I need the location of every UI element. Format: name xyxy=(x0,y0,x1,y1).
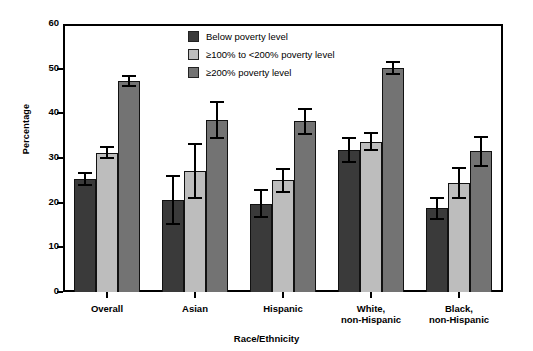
error-bar-cap-upper xyxy=(210,101,224,103)
x-tick-mark-0 xyxy=(106,292,108,298)
error-bar-cap-upper xyxy=(474,136,488,138)
error-bar-line xyxy=(348,138,350,161)
y-axis-title: Percentage xyxy=(21,89,31,169)
error-bar-cap-upper xyxy=(254,189,268,191)
error-bar-line xyxy=(370,133,372,150)
error-bar-line xyxy=(458,168,460,197)
error-bar-cap-upper xyxy=(276,168,290,170)
error-bar-cap-lower xyxy=(100,157,114,159)
y-tick-label-30: 30 xyxy=(38,151,59,162)
bar-1-0 xyxy=(162,24,184,292)
error-bar-line xyxy=(436,198,438,219)
error-bar-cap-lower xyxy=(430,218,444,220)
legend-label-0: Below poverty level xyxy=(206,31,288,42)
error-bar-cap-upper xyxy=(430,197,444,199)
bar-rect xyxy=(206,120,228,292)
error-bar-cap-upper xyxy=(100,146,114,148)
error-bar-cap-lower xyxy=(166,223,180,225)
error-bar-line xyxy=(260,190,262,217)
bar-rect xyxy=(96,153,118,292)
error-bar-cap-lower xyxy=(474,165,488,167)
bar-0-1 xyxy=(96,24,118,292)
bar-chart: Percentage 0102030405060 OverallAsianHis… xyxy=(0,0,533,351)
x-tick-mark-3 xyxy=(370,292,372,298)
error-bar-cap-upper xyxy=(78,172,92,174)
bar-rect xyxy=(338,150,360,292)
bar-rect xyxy=(118,81,140,292)
x-tick-mark-4 xyxy=(458,292,460,298)
error-bar-line xyxy=(282,169,284,192)
error-bar-cap-upper xyxy=(188,143,202,145)
bar-3-0 xyxy=(338,24,360,292)
bar-rect xyxy=(426,208,448,292)
bar-rect xyxy=(360,142,382,292)
legend-swatch-0 xyxy=(188,31,199,42)
x-tick-label-4: Black,non-Hispanic xyxy=(399,303,519,325)
bar-3-2 xyxy=(382,24,404,292)
error-bar-cap-upper xyxy=(364,132,378,134)
legend: Below poverty level≥100% to <200% povert… xyxy=(188,28,335,82)
legend-item-2: ≥200% poverty level xyxy=(188,64,335,80)
error-bar-cap-lower xyxy=(452,197,466,199)
error-bar-cap-lower xyxy=(210,137,224,139)
y-tick-label-10: 10 xyxy=(38,240,59,251)
error-bar-cap-lower xyxy=(276,191,290,193)
bar-rect xyxy=(448,183,470,292)
legend-item-1: ≥100% to <200% poverty level xyxy=(188,46,335,62)
bar-rect xyxy=(272,180,294,292)
error-bar-line xyxy=(304,109,306,134)
error-bar-line xyxy=(172,176,174,224)
bar-rect xyxy=(74,179,96,292)
error-bar-cap-lower xyxy=(364,149,378,151)
error-bar-cap-lower xyxy=(342,161,356,163)
error-bar-cap-upper xyxy=(342,137,356,139)
y-tick-label-60: 60 xyxy=(38,17,59,28)
error-bar-line xyxy=(480,137,482,166)
bar-4-2 xyxy=(470,24,492,292)
x-tick-label-line2: non-Hispanic xyxy=(341,314,401,325)
bar-rect xyxy=(470,151,492,292)
x-axis-title: Race/Ethnicity xyxy=(0,333,533,344)
error-bar-cap-lower xyxy=(298,133,312,135)
bar-0-2 xyxy=(118,24,140,292)
y-tick-label-0: 0 xyxy=(38,285,59,296)
bar-4-1 xyxy=(448,24,470,292)
bar-3-1 xyxy=(360,24,382,292)
error-bar-cap-lower xyxy=(386,73,400,75)
bar-0-0 xyxy=(74,24,96,292)
y-tick-label-40: 40 xyxy=(38,106,59,117)
legend-swatch-1 xyxy=(188,49,199,60)
bar-4-0 xyxy=(426,24,448,292)
y-tick-label-20: 20 xyxy=(38,196,59,207)
y-tick-label-50: 50 xyxy=(38,62,59,73)
error-bar-cap-upper xyxy=(386,61,400,63)
error-bar-cap-lower xyxy=(254,216,268,218)
error-bar-cap-upper xyxy=(298,108,312,110)
legend-item-0: Below poverty level xyxy=(188,28,335,44)
error-bar-cap-lower xyxy=(188,197,202,199)
x-tick-mark-1 xyxy=(194,292,196,298)
x-tick-mark-2 xyxy=(282,292,284,298)
error-bar-cap-upper xyxy=(452,167,466,169)
error-bar-line xyxy=(216,102,218,138)
error-bar-cap-lower xyxy=(78,184,92,186)
legend-label-1: ≥100% to <200% poverty level xyxy=(206,49,335,60)
error-bar-cap-lower xyxy=(122,85,136,87)
error-bar-cap-upper xyxy=(166,175,180,177)
x-tick-label-line2: non-Hispanic xyxy=(429,314,489,325)
error-bar-line xyxy=(194,144,196,198)
bar-rect xyxy=(382,68,404,292)
error-bar-cap-upper xyxy=(122,75,136,77)
legend-swatch-2 xyxy=(188,67,199,78)
bar-rect xyxy=(294,121,316,292)
legend-label-2: ≥200% poverty level xyxy=(206,67,291,78)
